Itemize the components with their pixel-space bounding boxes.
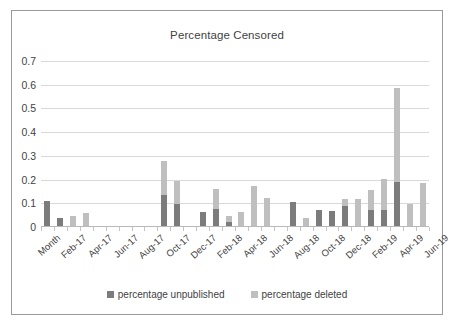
- x-axis-tick-label: Apr-19: [396, 232, 425, 259]
- gridline: [41, 156, 429, 157]
- bar-segment-unpublished: [329, 211, 335, 227]
- bar-segment-unpublished: [381, 210, 387, 227]
- bar-segment-deleted: [355, 199, 361, 227]
- y-axis-tick-label: 0.5: [21, 102, 36, 114]
- gridline: [41, 61, 429, 62]
- x-axis-tick-label: Feb-18: [214, 232, 244, 260]
- x-axis-tick-label: Jun-18: [267, 232, 296, 260]
- legend-item[interactable]: percentage deleted: [251, 289, 348, 300]
- x-axis-tick: [235, 227, 236, 231]
- bar-segment-unpublished: [44, 201, 50, 227]
- chart-title: Percentage Censored: [12, 29, 442, 41]
- gridline: [41, 85, 429, 86]
- bar-segment-deleted: [238, 212, 244, 227]
- y-axis-tick-label: 0.7: [21, 55, 36, 67]
- bar-segment-unpublished: [394, 182, 400, 227]
- x-axis-tick: [222, 227, 223, 231]
- bar-segment-unpublished: [368, 210, 374, 227]
- x-axis-tick: [313, 227, 314, 231]
- chart-legend: percentage unpublishedpercentage deleted: [12, 289, 442, 300]
- x-axis-tick-label: Jun-17: [111, 232, 140, 260]
- bar-segment-deleted: [381, 179, 387, 210]
- x-axis-tick: [248, 227, 249, 231]
- y-axis-tick-label: 0.1: [21, 197, 36, 209]
- legend-swatch-icon: [107, 291, 114, 298]
- x-axis-tick: [416, 227, 417, 231]
- bar-segment-deleted: [226, 216, 232, 222]
- y-axis-tick-label: 0.3: [21, 150, 36, 162]
- x-axis-tick: [196, 227, 197, 231]
- gridline: [41, 108, 429, 109]
- bar-segment-deleted: [342, 199, 348, 207]
- y-axis-tick-label: 0.6: [21, 78, 36, 90]
- x-axis-tick-label: Oct-17: [164, 232, 193, 259]
- bar-segment-deleted: [368, 190, 374, 210]
- legend-swatch-icon: [251, 291, 258, 298]
- bar-segment-unpublished: [200, 212, 206, 227]
- x-axis-tick: [429, 227, 430, 231]
- x-axis-tick: [183, 227, 184, 231]
- x-axis-tick-label: Dec-17: [188, 232, 218, 261]
- x-axis-tick-label: Feb-17: [59, 232, 89, 260]
- bar-segment-unpublished: [213, 209, 219, 227]
- x-axis-tick-label: Apr-18: [241, 232, 270, 259]
- x-axis-tick-label: Oct-18: [319, 232, 348, 259]
- x-axis-tick: [300, 227, 301, 231]
- x-axis-tick: [106, 227, 107, 231]
- x-axis-tick: [261, 227, 262, 231]
- gridline: [41, 132, 429, 133]
- x-axis-tick: [144, 227, 145, 231]
- x-axis-tick: [132, 227, 133, 231]
- bar-segment-deleted: [83, 213, 89, 227]
- x-axis-tick: [287, 227, 288, 231]
- chart-container: Percentage Censored 00.10.20.30.40.50.60…: [11, 10, 443, 315]
- x-axis-tick: [209, 227, 210, 231]
- plot-area: 00.10.20.30.40.50.60.7: [41, 61, 429, 227]
- x-axis-tick: [364, 227, 365, 231]
- bar-segment-deleted: [174, 181, 180, 205]
- bar-segment-deleted: [420, 183, 426, 227]
- x-axis-labels: MonthFeb-17Apr-17Jun-17Aug-17Oct-17Dec-1…: [41, 232, 429, 284]
- x-axis-tick: [274, 227, 275, 231]
- bar-segment-unpublished: [342, 206, 348, 227]
- y-axis-tick-label: 0.4: [21, 126, 36, 138]
- x-axis-tick: [351, 227, 352, 231]
- bar-segment-deleted: [213, 189, 219, 208]
- x-axis-tick: [67, 227, 68, 231]
- y-axis-tick-label: 0.2: [21, 173, 36, 185]
- x-axis-tick-label: Apr-17: [86, 232, 115, 259]
- bar-segment-unpublished: [174, 204, 180, 227]
- x-axis-tick-label: Aug-18: [291, 232, 321, 261]
- gridline: [41, 180, 429, 181]
- bar-segment-deleted: [407, 204, 413, 227]
- x-axis-tick-label: Dec-18: [343, 232, 373, 261]
- legend-label: percentage unpublished: [118, 289, 225, 300]
- legend-label: percentage deleted: [262, 289, 348, 300]
- x-axis-tick: [119, 227, 120, 231]
- bar-segment-deleted: [394, 88, 400, 183]
- x-axis-tick-label: Feb-19: [369, 232, 399, 260]
- bar-segment-deleted: [251, 186, 257, 227]
- x-axis-tick: [170, 227, 171, 231]
- x-axis-tick: [80, 227, 81, 231]
- bar-segment-unpublished: [161, 195, 167, 227]
- bar-segment-unpublished: [316, 210, 322, 227]
- x-axis-tick: [326, 227, 327, 231]
- x-axis-tick-label: Aug-17: [136, 232, 166, 261]
- x-axis-tick: [93, 227, 94, 231]
- legend-item[interactable]: percentage unpublished: [107, 289, 225, 300]
- x-axis-tick: [54, 227, 55, 231]
- x-axis-tick: [377, 227, 378, 231]
- bar-segment-deleted: [161, 161, 167, 195]
- y-axis-tick-label: 0: [30, 221, 36, 233]
- x-axis-tick: [403, 227, 404, 231]
- x-axis-tick: [390, 227, 391, 231]
- x-axis-tick: [41, 227, 42, 231]
- x-axis-tick: [157, 227, 158, 231]
- x-axis-tick-label: Month: [36, 232, 63, 258]
- bar-segment-deleted: [264, 198, 270, 227]
- x-axis-tick-label: Jun-19: [422, 232, 451, 260]
- bar-segment-unpublished: [290, 202, 296, 227]
- x-axis-tick: [338, 227, 339, 231]
